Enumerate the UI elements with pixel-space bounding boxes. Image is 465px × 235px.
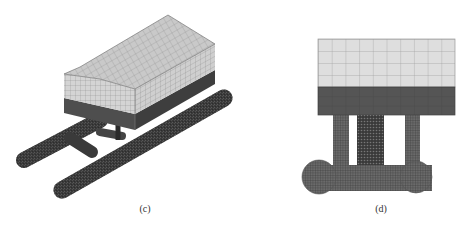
mesh-side-view [240,0,465,235]
caption-d: (d) [375,203,387,214]
transverse-pipe [302,160,432,194]
mesh-isometric-view [0,0,240,235]
caption-c: (c) [139,203,150,214]
figure-panel-d: (d) [240,0,465,235]
deck-box [318,39,455,115]
legs [333,115,420,167]
figure-panel-c: (c) [0,0,240,235]
